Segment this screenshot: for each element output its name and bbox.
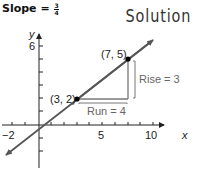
point-7-5-label: (7, 5) [101,48,127,60]
rise-bracket [133,61,135,98]
y-tick-label-6: 6 [29,40,35,52]
y-axis-label: y [28,28,36,40]
slope-graph: −2 5 10 x 6 y Run = 4 Rise = 3 (3, 2) (7… [0,0,197,169]
x-tick-label-10: 10 [145,129,157,141]
y-axis-ticks [39,46,43,151]
x-tick-label-5: 5 [98,129,104,141]
run-bracket [79,103,127,104]
point-3-2-label: (3, 2) [50,93,76,105]
x-tick-label-neg2: −2 [2,129,15,141]
run-label: Run = 4 [87,105,126,117]
x-axis-label: x [181,129,188,141]
rise-label: Rise = 3 [139,73,180,85]
